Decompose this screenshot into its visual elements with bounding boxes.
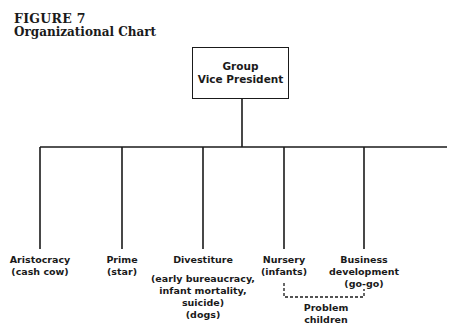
node-business-development-name: Business xyxy=(329,254,399,266)
node-divestiture-name: Divestiture xyxy=(151,254,255,266)
group-vice-president-box: Group Vice President xyxy=(192,47,289,99)
node-aristocracy: Aristocracy (cash cow) xyxy=(10,254,71,278)
node-prime-alias: (star) xyxy=(106,266,137,278)
node-nursery: Nursery (infants) xyxy=(261,254,307,278)
node-divestiture: Divestiture (early bureaucracy, infant m… xyxy=(151,254,255,321)
node-nursery-name: Nursery xyxy=(261,254,307,266)
node-prime-name: Prime xyxy=(106,254,137,266)
node-divestiture-note-2: infant mortality, xyxy=(151,285,255,297)
node-divestiture-note-3: suicide) xyxy=(151,297,255,309)
node-aristocracy-name: Aristocracy xyxy=(10,254,71,266)
node-business-development-alias: (go-go) xyxy=(329,278,399,290)
root-label-line2: Vice President xyxy=(198,73,284,86)
node-nursery-alias: (infants) xyxy=(261,266,307,278)
problem-children-line2: children xyxy=(304,314,349,326)
root-label-line1: Group xyxy=(222,60,258,73)
node-divestiture-note-4: (dogs) xyxy=(151,309,255,321)
node-business-development: Business development (go-go) xyxy=(329,254,399,290)
node-business-development-name2: development xyxy=(329,266,399,278)
node-divestiture-note-1: (early bureaucracy, xyxy=(151,273,255,285)
node-divestiture-notes: (early bureaucracy, infant mortality, su… xyxy=(151,273,255,321)
node-aristocracy-alias: (cash cow) xyxy=(10,266,71,278)
node-prime: Prime (star) xyxy=(106,254,137,278)
problem-children-line1: Problem xyxy=(304,302,349,314)
problem-children-label: Problem children xyxy=(304,302,349,326)
